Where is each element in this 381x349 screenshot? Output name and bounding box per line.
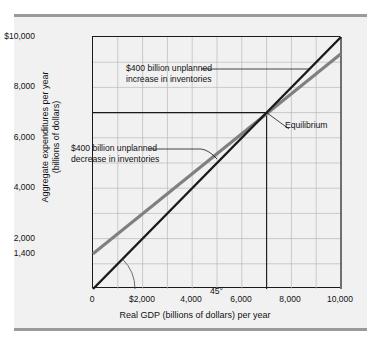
x-tick-8000: 8,000: [279, 294, 300, 304]
y-tick-1400: 1,400: [14, 248, 35, 258]
angle-label: 45°: [210, 286, 223, 296]
x-axis-title: Real GDP (billions of dollars) per year: [40, 310, 350, 320]
annotation-increase-line2: increase in inventories: [126, 74, 212, 84]
x-tick-4000: 4,000: [180, 294, 201, 304]
annotation-decrease-line2: decrease in inventories: [71, 154, 159, 164]
figure-top-rule: [14, 14, 367, 17]
y-tick-2000: 2,000: [14, 233, 35, 243]
annotation-increase-line1: $400 billion unplanned: [126, 63, 212, 73]
y-tick-6000: 6,000: [14, 132, 35, 142]
annotation-equilibrium: Equilibrium: [285, 120, 328, 131]
y-tick-8000: 8,000: [14, 81, 35, 91]
annotation-unplanned-decrease: $400 billion unplanned decrease in inven…: [71, 143, 159, 164]
y-tick-4000: 4,000: [14, 182, 35, 192]
annotation-decrease-line1: $400 billion unplanned: [71, 143, 157, 153]
figure-panel: Aggregate expenditures per year (billion…: [14, 14, 367, 331]
annotation-unplanned-increase: $400 billion unplanned increase in inven…: [126, 63, 212, 84]
figure-bottom-rule: [14, 328, 367, 331]
x-tick-6000: 6,000: [230, 294, 251, 304]
x-tick-0: 0: [90, 294, 95, 304]
y-axis-title: Aggregate expenditures per year (billion…: [40, 52, 62, 222]
y-axis-title-line1: Aggregate expenditures per year: [40, 71, 50, 202]
y-axis-title-line2: (billions of dollars): [51, 101, 61, 174]
x-tick-2000: $2,000: [129, 294, 155, 304]
y-tick-10000: $10,000: [4, 31, 35, 41]
x-tick-10000: 10,000: [327, 294, 353, 304]
